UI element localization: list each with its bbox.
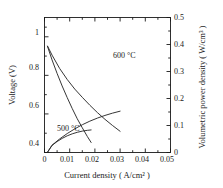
x-tick-label: 0.03 xyxy=(107,155,127,164)
x-tick-label: 0.05 xyxy=(157,155,177,164)
y-axis-title: Voltage (V) xyxy=(7,49,17,121)
y2-tick-label: 0.3 xyxy=(174,67,184,76)
y2-tick-label: 0.4 xyxy=(174,40,184,49)
y-tick-label: 1 xyxy=(20,28,39,37)
y2-tick-label: 0.2 xyxy=(174,94,184,103)
x-tick-label: 0.01 xyxy=(57,155,77,164)
y2-axis-title: Volumetric power density ( W/cm³ ) xyxy=(197,18,207,156)
annotation-600c: 600 °C xyxy=(113,51,136,60)
y-tick-label: 0.6 xyxy=(20,101,39,110)
y-tick-label: 0.4 xyxy=(20,139,39,148)
chart-figure: 1 0.8 0.6 0.4 0.5 0.4 0.3 0.2 0.1 0 0 0.… xyxy=(0,0,223,188)
y-tick-label: 0.8 xyxy=(20,63,39,72)
annotation-500c: 500 °C xyxy=(57,124,80,133)
x-tick-label: 0 xyxy=(41,155,48,164)
y2-tick-label: 0.1 xyxy=(174,121,184,130)
series-curves xyxy=(48,46,121,152)
x-axis-title: Current density ( A/cm² ) xyxy=(44,170,170,180)
y2-tick-label: 0.5 xyxy=(174,13,184,22)
x-tick-label: 0.02 xyxy=(82,155,102,164)
series-curve xyxy=(48,46,121,131)
x-tick-label: 0.04 xyxy=(132,155,152,164)
